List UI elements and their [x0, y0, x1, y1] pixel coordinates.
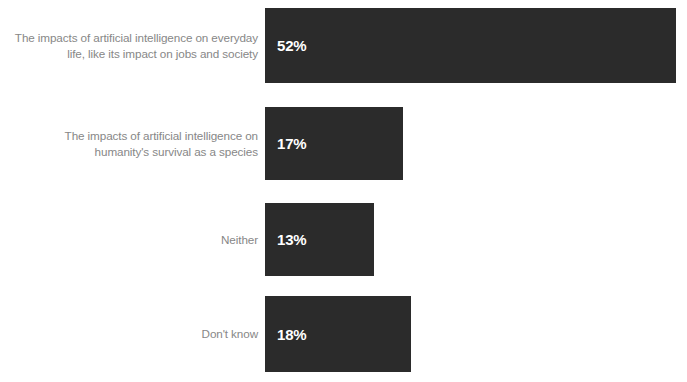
- bar-track: 13%: [265, 203, 687, 276]
- chart-row: Don't know 18%: [0, 296, 687, 372]
- chart-row: The impacts of artificial intelligence o…: [0, 8, 687, 83]
- category-label: The impacts of artificial intelligence o…: [0, 30, 265, 61]
- bar: 17%: [265, 107, 403, 180]
- bar-value-label: 52%: [277, 38, 306, 53]
- category-label: Don't know: [0, 326, 265, 342]
- category-label: The impacts of artificial intelligence o…: [0, 128, 265, 159]
- bar: 18%: [265, 296, 411, 372]
- bar-track: 18%: [265, 296, 687, 372]
- bar-value-label: 13%: [277, 232, 306, 247]
- bar-value-label: 17%: [277, 136, 306, 151]
- chart-row: Neither 13%: [0, 203, 687, 276]
- chart-row: The impacts of artificial intelligence o…: [0, 107, 687, 180]
- bar-value-label: 18%: [277, 327, 306, 342]
- bar-track: 17%: [265, 107, 687, 180]
- bar-track: 52%: [265, 8, 687, 83]
- bar: 13%: [265, 203, 374, 276]
- horizontal-bar-chart: The impacts of artificial intelligence o…: [0, 0, 687, 382]
- category-label: Neither: [0, 232, 265, 248]
- bar: 52%: [265, 8, 676, 83]
